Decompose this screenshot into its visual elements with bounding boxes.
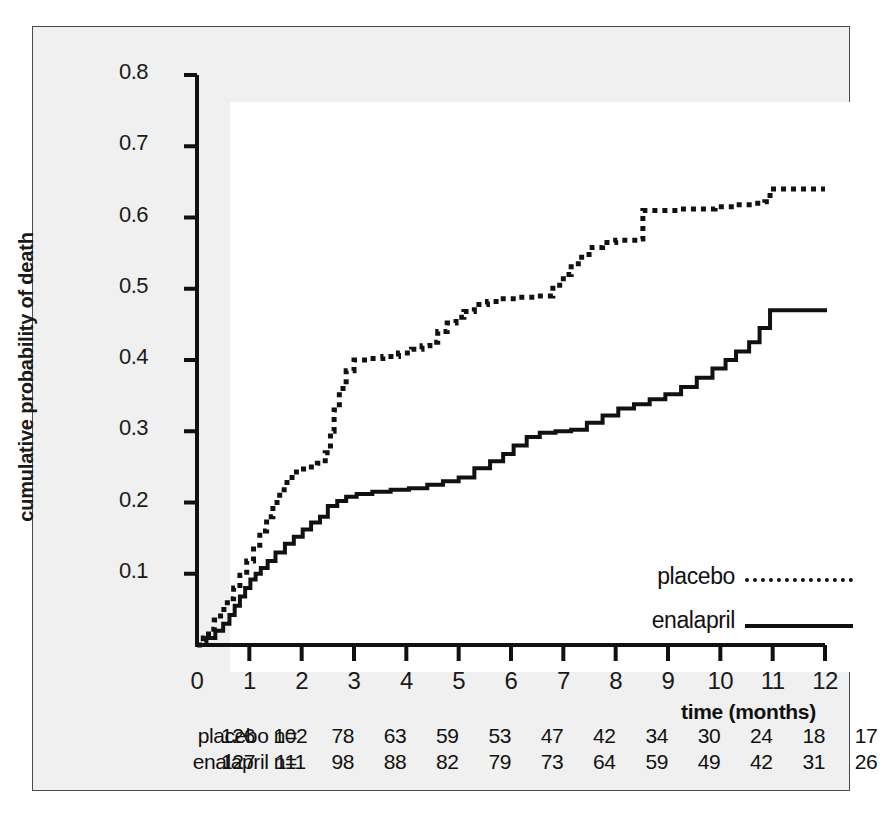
chart-graphics	[0, 0, 884, 821]
y-tick-label: 0.8	[88, 59, 148, 85]
x-tick-label: 8	[596, 667, 636, 695]
y-tick-label: 0.7	[88, 130, 148, 156]
x-tick-label: 10	[700, 667, 740, 695]
figure-canvas: cumulative probability of death time (mo…	[0, 0, 884, 821]
series-line-placebo	[197, 189, 825, 645]
y-tick-label: 0.3	[88, 415, 148, 441]
x-tick-label: 12	[805, 667, 845, 695]
x-tick-label: 11	[753, 667, 793, 695]
y-tick-label: 0.1	[88, 558, 148, 584]
x-tick-label: 6	[491, 667, 531, 695]
x-tick-label: 7	[543, 667, 583, 695]
x-tick-label: 0	[177, 667, 217, 695]
x-tick-label: 2	[282, 667, 322, 695]
x-tick-label: 9	[648, 667, 688, 695]
x-tick-label: 4	[386, 667, 426, 695]
x-tick-label: 3	[334, 667, 374, 695]
y-tick-label: 0.4	[88, 344, 148, 370]
y-tick-label: 0.2	[88, 487, 148, 513]
x-tick-label: 1	[229, 667, 269, 695]
y-tick-label: 0.5	[88, 273, 148, 299]
y-tick-label: 0.6	[88, 202, 148, 228]
x-tick-label: 5	[439, 667, 479, 695]
